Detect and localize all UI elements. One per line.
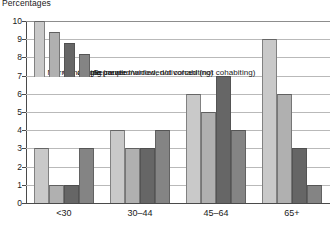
y-tick-label: 10 bbox=[13, 17, 22, 26]
y-tick-mark bbox=[22, 203, 26, 204]
x-tick-label: <30 bbox=[26, 208, 102, 218]
bar[interactable] bbox=[262, 39, 277, 203]
x-tick-label: 65+ bbox=[254, 208, 330, 218]
bar[interactable] bbox=[292, 148, 307, 203]
y-axis-labels: 012345678910 bbox=[0, 0, 22, 233]
y-tick-mark bbox=[22, 148, 26, 149]
y-tick-mark bbox=[22, 39, 26, 40]
bar[interactable] bbox=[155, 130, 170, 203]
legend-item[interactable]: Separated/widowed/divorced (not cohabiti… bbox=[79, 54, 255, 77]
x-tick-label: 45–64 bbox=[178, 208, 254, 218]
bar[interactable] bbox=[34, 148, 49, 203]
legend-swatch bbox=[49, 32, 60, 77]
chart-container: Percentages 012345678910 <3030–4445–6465… bbox=[0, 0, 333, 233]
bar[interactable] bbox=[216, 76, 231, 203]
legend-label: Separated/widowed/divorced (not cohabiti… bbox=[90, 68, 255, 77]
bar-group bbox=[254, 21, 330, 203]
legend-swatch bbox=[34, 21, 45, 77]
y-tick-mark bbox=[22, 130, 26, 131]
y-tick-mark bbox=[22, 112, 26, 113]
y-tick-mark bbox=[22, 21, 26, 22]
y-tick-mark bbox=[22, 94, 26, 95]
bar[interactable] bbox=[79, 148, 94, 203]
legend-swatch bbox=[64, 43, 75, 77]
bar[interactable] bbox=[307, 185, 322, 203]
bar[interactable] bbox=[231, 130, 246, 203]
y-tick-mark bbox=[22, 76, 26, 77]
bar[interactable] bbox=[201, 112, 216, 203]
bar[interactable] bbox=[64, 185, 79, 203]
legend-swatch bbox=[79, 54, 90, 77]
y-tick-mark bbox=[22, 57, 26, 58]
bar[interactable] bbox=[49, 185, 64, 203]
bar[interactable] bbox=[186, 94, 201, 203]
bar[interactable] bbox=[125, 148, 140, 203]
y-tick-mark bbox=[22, 167, 26, 168]
y-tick-mark bbox=[22, 185, 26, 186]
x-tick-label: 30–44 bbox=[102, 208, 178, 218]
bar[interactable] bbox=[140, 148, 155, 203]
bar[interactable] bbox=[277, 94, 292, 203]
x-axis-line bbox=[26, 203, 330, 204]
bar[interactable] bbox=[110, 130, 125, 203]
